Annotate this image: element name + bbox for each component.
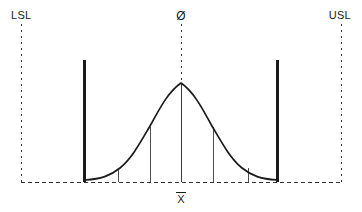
process-capability-diagram: LSL USL Ø X xyxy=(0,0,362,212)
usl-label: USL xyxy=(329,9,351,21)
center-symbol-label: Ø xyxy=(176,9,185,23)
capability-chart-svg: LSL USL Ø X xyxy=(0,0,362,212)
mean-label: X xyxy=(177,193,185,205)
lsl-label: LSL xyxy=(11,9,31,21)
